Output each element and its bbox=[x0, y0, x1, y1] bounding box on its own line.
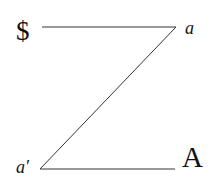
edge-a-to-a-prime bbox=[40, 27, 176, 169]
node-a-prime-label: a′ bbox=[16, 157, 30, 177]
schema-l-diagram: $ a a′ A bbox=[0, 0, 220, 186]
node-big-a-label: A bbox=[182, 141, 203, 173]
node-a-label: a bbox=[185, 18, 194, 38]
node-subject-label: $ bbox=[16, 16, 30, 46]
